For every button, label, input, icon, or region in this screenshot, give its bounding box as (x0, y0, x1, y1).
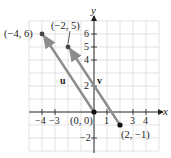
point-label: (2, −1) (121, 129, 150, 141)
y-tick-label: 5 (84, 41, 89, 52)
y-tick-label: 2 (84, 80, 89, 91)
vector-u-label: u (60, 75, 66, 86)
point-neg4-6 (40, 32, 45, 37)
point-label: (−2, 5) (51, 20, 80, 32)
x-axis-label: x (162, 105, 168, 117)
y-tick-label: 4 (84, 54, 89, 65)
point-neg2-5 (66, 45, 71, 50)
y-axis-label: y (90, 4, 96, 16)
vector-v-label: v (97, 75, 102, 86)
vector-diagram: x y −4 −3 1 3 4 6 5 4 2 −2 u v (−4, 6) (… (0, 0, 171, 158)
y-tick-label: −2 (80, 132, 91, 143)
x-tick-label: 1 (104, 115, 109, 126)
x-tick-label: −4 (35, 115, 46, 126)
x-tick-label: 4 (143, 115, 148, 126)
x-tick-label: −3 (49, 115, 60, 126)
y-tick-label: 6 (84, 28, 89, 39)
point-label: (0, 0) (70, 115, 93, 127)
point-label: (−4, 6) (4, 28, 33, 40)
point-2-neg1 (117, 122, 122, 127)
point-origin (91, 109, 96, 114)
x-tick-label: 3 (130, 115, 135, 126)
